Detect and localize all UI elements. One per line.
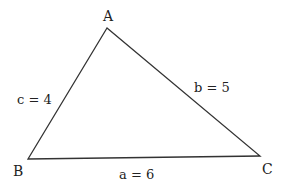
side-label-b: b = 5 [194, 80, 230, 95]
side-label-a: a = 6 [119, 167, 154, 182]
side-label-c: c = 4 [17, 92, 52, 107]
vertex-label-b: B [13, 163, 23, 179]
vertex-label-c: C [262, 161, 273, 177]
triangle-diagram: A B C c = 4 b = 5 a = 6 [0, 0, 288, 186]
vertex-label-a: A [102, 8, 114, 24]
